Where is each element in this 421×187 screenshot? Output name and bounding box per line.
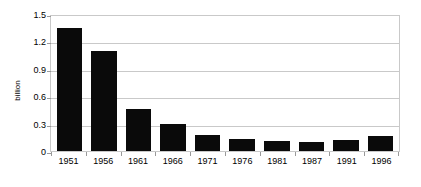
x-axis-tick-label: 1976 [225, 156, 260, 166]
bar-slot [52, 16, 87, 151]
x-axis-tick-label: 1951 [51, 156, 86, 166]
x-axis-tick-label: 1966 [155, 156, 190, 166]
y-axis-tick-mark [47, 71, 51, 72]
x-axis-tick-labels: 1951195619611966197119761981198719911996 [50, 156, 400, 166]
x-axis-tick-label: 1991 [329, 156, 364, 166]
bar-slot [190, 16, 225, 151]
y-axis-tick-mark [47, 126, 51, 127]
bar [57, 28, 83, 151]
x-axis-tick-label: 1981 [260, 156, 295, 166]
x-axis-tick-label: 1987 [295, 156, 330, 166]
bar-slot [156, 16, 191, 151]
bar-slot [363, 16, 398, 151]
bar [333, 140, 359, 151]
plot-area [50, 15, 400, 152]
x-axis-tick-label: 1996 [364, 156, 399, 166]
bar-slot [87, 16, 122, 151]
y-axis-tick-mark [47, 43, 51, 44]
y-axis-tick-label: 0 [41, 147, 46, 157]
x-axis-tick-label: 1961 [121, 156, 156, 166]
bar [264, 141, 290, 151]
bar-slot [294, 16, 329, 151]
bar [91, 51, 117, 151]
bar-slot [329, 16, 364, 151]
bar [368, 136, 394, 151]
y-axis-tick-label: 0.9 [33, 65, 46, 75]
y-axis-tick-label: 0.3 [33, 120, 46, 130]
x-axis-tick-label: 1956 [86, 156, 121, 166]
bar [195, 135, 221, 151]
bar [160, 124, 186, 151]
bar [229, 139, 255, 151]
bar-slot [260, 16, 295, 151]
y-axis-tick-mark [47, 16, 51, 17]
y-axis-tick-label: 0.6 [33, 92, 46, 102]
bar [126, 109, 152, 151]
bar-chart: billion 00.30.60.91.21.5 195119561961196… [0, 0, 421, 187]
y-axis-tick-label: 1.5 [33, 10, 46, 20]
bar-group [51, 16, 399, 151]
y-axis-tick-label: 1.2 [33, 37, 46, 47]
bar-slot [121, 16, 156, 151]
x-axis-tick-label: 1971 [190, 156, 225, 166]
y-axis-tick-mark [47, 98, 51, 99]
bar [299, 142, 325, 151]
y-axis-tick-labels: 00.30.60.91.21.5 [22, 15, 46, 152]
y-axis-title-text: billion [13, 80, 22, 100]
bar-slot [225, 16, 260, 151]
